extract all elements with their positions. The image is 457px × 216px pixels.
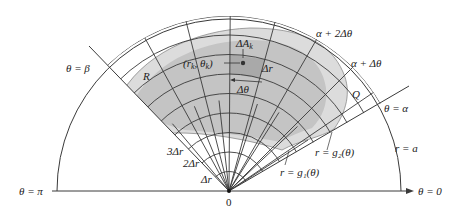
label-r-a: r = a (395, 142, 418, 154)
label-g1: r = g₁(θ) (280, 166, 320, 179)
label-cell-dr: Δr (261, 62, 273, 74)
origin-dot (227, 189, 231, 193)
label-region-q: Q (352, 88, 360, 100)
origin-label: 0 (226, 196, 232, 208)
label-3dr: 3Δr (166, 145, 184, 157)
label-theta-pi: θ = π (19, 185, 43, 197)
label-point-rk-thetak: (rk, θk) (183, 57, 213, 71)
label-alpha-plus-dtheta: α + Δθ (351, 57, 382, 69)
label-theta-alpha: θ = α (384, 102, 408, 114)
label-dr: Δr (200, 173, 212, 185)
label-g2: r = g₂(θ) (315, 146, 355, 159)
label-alpha-plus-2dtheta: α + 2Δθ (316, 27, 353, 39)
label-region-r: R (142, 70, 150, 82)
polar-region-diagram: 0 θ = 0 θ = π θ = α θ = β r = a α + 2Δθ … (0, 0, 457, 216)
sample-point (241, 61, 245, 65)
arrow-head-icon (406, 188, 414, 194)
region-r (107, 28, 380, 191)
label-theta-zero: θ = 0 (418, 185, 442, 197)
label-theta-beta: θ = β (66, 62, 90, 74)
label-2dr: 2Δr (183, 157, 200, 169)
label-cell-dtheta: Δθ (236, 83, 249, 95)
